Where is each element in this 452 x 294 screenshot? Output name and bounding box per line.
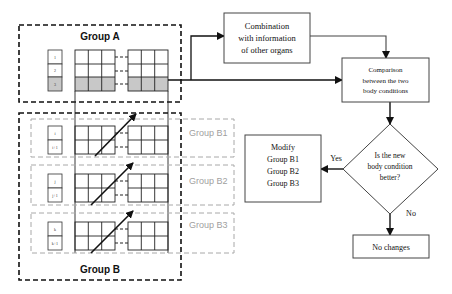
decision-diamond: Is the new body condition better? [343, 124, 438, 214]
update-arrow-b2 [91, 163, 133, 205]
combination-line: with information [238, 33, 296, 43]
group-b3-grid [75, 222, 168, 250]
group-b2-label: Group B2 [189, 176, 228, 186]
index-label: j+1 [51, 193, 57, 198]
index-label: 3 [54, 82, 56, 87]
combination-box: Combination with information of other or… [224, 13, 310, 63]
combination-line: Combination [245, 21, 290, 31]
group-b2: Group B2 j j+1 [31, 165, 234, 205]
comparison-line: Comparison [368, 66, 403, 74]
update-arrow-b1 [95, 114, 136, 156]
comparison-box: Comparison between the two body conditio… [342, 58, 429, 102]
group-a-label: Group A [80, 31, 120, 42]
flow-diagram: Group A 1 2 3 Group B [0, 0, 452, 294]
modify-line: Group B2 [267, 167, 299, 176]
index-label: 1 [54, 55, 56, 60]
index-label: k+1 [52, 241, 58, 246]
yes-label: Yes [330, 154, 342, 163]
group-b-label: Group B [80, 264, 120, 275]
no-changes-label: No changes [372, 243, 410, 252]
index-label: i+1 [52, 145, 57, 150]
modify-box: Modify Group B1 Group B2 Group B3 [245, 135, 321, 202]
modify-line: Group B1 [267, 155, 299, 164]
arrow-combination-to-comparison [310, 36, 386, 58]
modify-line: Group B3 [267, 179, 299, 188]
update-arrow-b3 [91, 211, 133, 253]
decision-line: body condition [367, 162, 412, 171]
comparison-line: body conditions [363, 87, 408, 95]
group-b: Group B Group B1 i i+1 Group B2 j [19, 113, 234, 280]
group-b1-grid [75, 126, 168, 154]
index-label: 2 [54, 68, 56, 73]
decision-line: Is the new [375, 151, 406, 160]
index-label: j [53, 179, 55, 184]
group-b3-label: Group B3 [189, 220, 228, 230]
group-b1: Group B1 i i+1 [31, 119, 234, 157]
group-b1-label: Group B1 [189, 128, 228, 138]
group-b3: Group B3 k k+1 [31, 213, 234, 253]
group-b2-grid [75, 174, 168, 202]
no-changes-box: No changes [353, 235, 429, 258]
arrow-to-combination [191, 36, 224, 80]
group-a-grid [75, 50, 168, 91]
no-label: No [406, 209, 416, 218]
modify-line: Modify [271, 143, 295, 152]
index-label: k [54, 227, 56, 232]
group-a: Group A 1 2 3 [19, 25, 181, 102]
decision-line: better? [380, 173, 401, 182]
group-a-index-column: 1 2 3 [48, 50, 62, 91]
combination-line: of other organs [241, 45, 292, 55]
comparison-line: between the two [363, 77, 409, 85]
